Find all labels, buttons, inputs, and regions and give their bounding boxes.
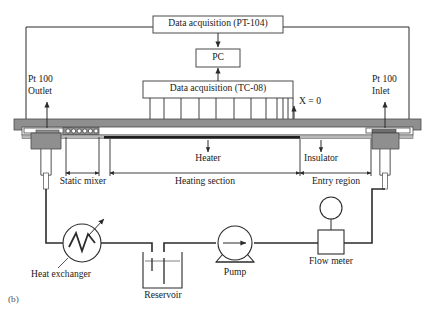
pt100-inlet-label-line1: Pt 100 [372,74,397,85]
figure-schematic: Data acquisition (PT-104) PC Data acquis… [0,0,435,314]
daq-tc08-label: Data acquisition (TC-08) [170,83,266,94]
pump-label: Pump [224,267,246,278]
heater-label: Heater [195,153,221,164]
daq-pt104-label: Data acquisition (PT-104) [168,18,267,29]
pump-symbol [216,226,254,262]
insulator-label: Insulator [304,153,338,164]
reservoir-label: Reservoir [144,290,181,301]
heat-exchanger-symbol [58,219,104,268]
static-mixer-beads [63,128,99,135]
x-origin-label: X = 0 [299,96,321,107]
entry-region-label: Entry region [312,176,360,187]
flow-meter-symbol [318,197,344,254]
heating-section-label: Heating section [175,176,235,187]
pt100-outlet-label-line1: Pt 100 [28,74,53,85]
flow-meter-label: Flow meter [309,256,353,267]
pt100-inlet-label-line2: Inlet [372,86,390,97]
figure-caption: (b) [8,294,19,304]
thermocouple-lines [150,98,293,121]
reservoir-symbol [143,252,182,288]
region-leader-arrows [208,140,321,152]
heat-exchanger-label: Heat exchanger [31,269,91,280]
daq-pc-label: PC [212,52,224,63]
pt100-outlet-label-line2: Outlet [28,86,52,97]
static-mixer-label: Static mixer [60,176,107,187]
